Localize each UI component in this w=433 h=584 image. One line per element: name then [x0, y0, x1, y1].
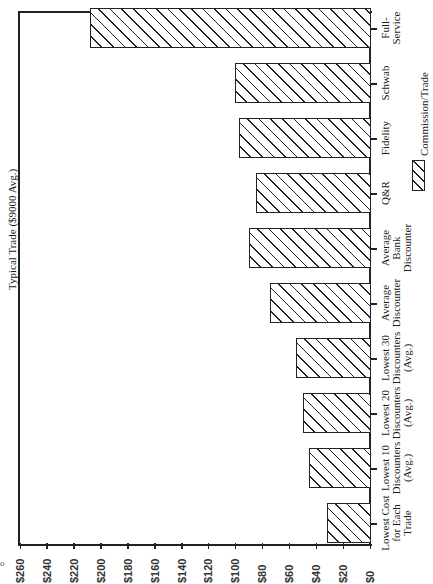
bar-full-service [90, 8, 371, 48]
category-tick [371, 193, 377, 195]
legend-swatch-hatch-icon [412, 160, 425, 191]
value-tick-label: $260 [14, 559, 26, 583]
value-tick [370, 543, 372, 549]
scan-artifact: o [0, 558, 5, 568]
bar-q-r [256, 173, 371, 213]
category-tick [371, 523, 377, 525]
bar-lowest-cost-for-each-trade [327, 503, 371, 543]
bar-lowest-20-discounters-avg- [303, 393, 371, 433]
value-tick [46, 543, 48, 549]
bar-average-discounter [270, 283, 371, 323]
value-tick-label: $220 [68, 559, 80, 583]
value-tick [235, 543, 237, 549]
value-tick-label: $200 [95, 559, 107, 583]
value-tick [208, 543, 210, 549]
category-tick [371, 413, 377, 415]
category-tick [371, 358, 377, 360]
bar-fidelity [239, 118, 371, 158]
value-tick [316, 543, 318, 549]
value-tick-label: $80 [256, 565, 268, 583]
category-tick [371, 303, 377, 305]
value-tick-label: $100 [229, 559, 241, 583]
bar-lowest-10-discounters-avg- [309, 448, 371, 488]
value-tick [73, 543, 75, 549]
value-tick [343, 543, 345, 549]
bar-average-bank-discounter [249, 228, 371, 268]
value-tick-label: $160 [149, 559, 161, 583]
value-tick-label: $40 [310, 565, 322, 583]
value-tick [100, 543, 102, 549]
value-tick-label: $0 [364, 571, 376, 583]
category-tick [371, 468, 377, 470]
value-tick-label: $20 [337, 565, 349, 583]
value-tick-label: $120 [202, 559, 214, 583]
value-tick-label: $240 [41, 559, 53, 583]
value-tick-label: $180 [122, 559, 134, 583]
value-tick [20, 543, 22, 549]
value-tick [289, 543, 291, 549]
category-tick [371, 83, 377, 85]
bar-schwab [235, 63, 371, 103]
value-tick [154, 543, 156, 549]
category-tick [371, 138, 377, 140]
category-tick [371, 248, 377, 250]
value-tick-label: $60 [283, 565, 295, 583]
legend-label: Commission/Trade [418, 72, 430, 156]
bar-lowest-30-discounters-avg- [296, 338, 371, 378]
value-tick [127, 543, 129, 549]
category-label: Full- Service [380, 0, 416, 63]
value-tick [262, 543, 264, 549]
chart-title: Typical Trade ($9000 Avg.) [6, 169, 18, 290]
category-tick [371, 28, 377, 30]
value-tick [181, 543, 183, 549]
value-tick-label: $140 [176, 559, 188, 583]
